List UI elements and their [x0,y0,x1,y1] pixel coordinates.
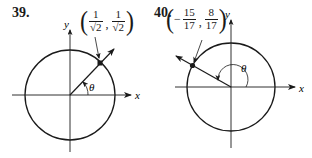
open-paren: ( [80,7,88,35]
problem-number: 39. [12,5,30,21]
close-paren: ) [219,5,227,33]
x-sign: − [174,12,181,27]
y-coordinate-fraction: 8 17 [205,7,218,31]
point-coordinates: ( − 15 17 , 8 17 ) [166,7,227,31]
y-axis-label: y [63,18,69,30]
x-axis-label: x [134,89,140,101]
terminal-ray [176,56,231,87]
figure-40: θ x y 40. ( − 15 17 , 8 17 ) [150,0,312,158]
y-numerator: 1 [115,9,123,21]
close-paren: ) [126,7,134,35]
y-denominator: √2 [112,22,126,34]
angle-arc [83,82,88,95]
x-denominator: √2 [89,22,103,34]
angle-label: θ [241,62,247,74]
figure-39: θ x y 39. ( 1 √2 , 1 √2 ) [0,0,156,158]
point-marker [190,63,195,68]
x-numerator: 1 [92,9,100,21]
point-marker [98,61,103,66]
y-coordinate-fraction: 1 √2 [112,9,126,33]
separator: , [199,9,202,30]
x-denominator: 17 [183,20,196,32]
y-numerator: 8 [208,7,216,19]
separator: , [106,11,109,32]
leader-line [95,37,99,58]
x-axis-label: x [298,82,304,94]
open-paren: ( [166,5,174,33]
angle-label: θ [89,81,95,93]
y-denominator: 17 [205,20,218,32]
x-coordinate-fraction: 15 17 [183,7,196,31]
x-numerator: 15 [183,7,196,19]
point-coordinates: ( 1 √2 , 1 √2 ) [80,9,134,33]
x-coordinate-fraction: 1 √2 [89,9,103,33]
